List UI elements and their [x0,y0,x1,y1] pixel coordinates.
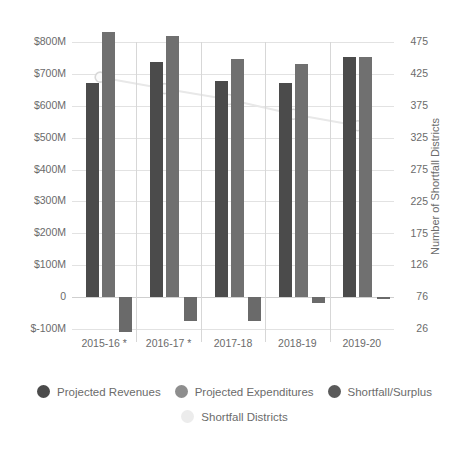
right-axis-tick-label: 275 [398,164,428,175]
right-axis-tick-label: 225 [398,196,428,207]
right-axis-tick-label: 425 [398,68,428,79]
legend-swatch-icon [181,410,194,423]
left-axis-tick-label: $800M [34,36,66,47]
legend-swatch-icon [328,385,341,398]
legend-item[interactable]: Shortfall/Surplus [328,385,432,398]
left-axis-tick-label: 0 [60,291,66,302]
bar-shortfall-surplus [377,297,390,299]
right-axis-title: Number of Shortfall Districts [429,118,441,255]
left-axis-tick-label: $700M [34,68,66,79]
legend-label: Shortfall/Surplus [348,386,432,398]
right-axis-tick-label: 475 [398,36,428,47]
x-axis-tick-label: 2016-17 * [146,337,192,349]
legend-label: Projected Revenues [57,386,161,398]
left-axis-tick-label: $500M [34,132,66,143]
bar-projected-revenues [86,83,99,297]
left-axis-tick-label: $300M [34,195,66,206]
x-axis-tick-label: 2015-16 * [81,337,127,349]
right-axis-tick-label: 126 [398,259,428,270]
left-axis-tick-label: $100M [34,259,66,270]
right-axis-tick-label: 175 [398,228,428,239]
category-tick [330,42,331,342]
legend-row: Projected RevenuesProjected Expenditures… [0,385,469,398]
legend-row: Shortfall Districts [0,410,469,423]
right-axis-tick-label: 325 [398,132,428,143]
right-axis-tick-label: 76 [398,291,428,302]
bar-shortfall-surplus [184,297,197,321]
bar-shortfall-surplus [312,297,325,303]
bar-projected-expenditures [231,59,244,298]
x-axis-tick-label: 2017-18 [214,337,253,349]
legend-item[interactable]: Projected Expenditures [175,385,314,398]
bar-shortfall-surplus [119,297,132,331]
left-axis-tick-label: $-100M [30,323,66,334]
bar-projected-revenues [279,83,292,297]
bar-projected-expenditures [359,57,372,297]
left-axis-tick-label: $200M [34,227,66,238]
x-axis-tick-label: 2018-19 [278,337,317,349]
right-axis-tick-label: 375 [398,100,428,111]
bar-shortfall-surplus [248,297,261,321]
x-axis-labels: 2015-16 *2016-17 *2017-182018-192019-20 [72,337,394,355]
legend-swatch-icon [37,385,50,398]
category-tick [265,42,266,342]
legend-item[interactable]: Projected Revenues [37,385,161,398]
category-tick [136,42,137,342]
legend-label: Projected Expenditures [195,386,314,398]
plot-area [72,42,394,329]
bar-projected-revenues [150,62,163,297]
legend-swatch-icon [175,385,188,398]
bar-projected-expenditures [295,64,308,297]
bar-projected-revenues [215,81,228,297]
chart-legend: Projected RevenuesProjected Expenditures… [0,385,469,435]
category-tick [201,42,202,342]
x-axis-tick-label: 2019-20 [343,337,382,349]
chart-container: $800M$700M$600M$500M$400M$300M$200M$100M… [0,0,469,453]
bar-projected-revenues [343,57,356,297]
legend-label: Shortfall Districts [201,411,287,423]
left-axis-tick-label: $400M [34,164,66,175]
bar-projected-expenditures [166,36,179,297]
legend-item[interactable]: Shortfall Districts [181,410,287,423]
right-axis-tick-label: 26 [398,323,428,334]
bar-projected-expenditures [102,32,115,297]
left-axis-tick-label: $600M [34,100,66,111]
